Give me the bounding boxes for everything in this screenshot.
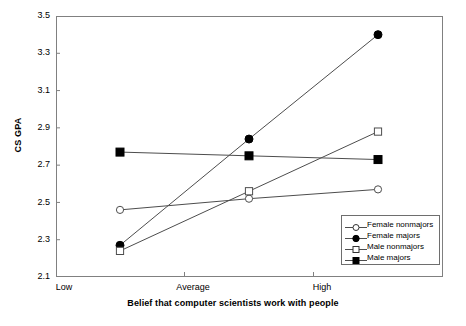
y-tick-label: 2.9 xyxy=(22,123,50,132)
y-tick-label: 3.5 xyxy=(22,11,50,20)
open-square-icon xyxy=(345,241,367,252)
data-point xyxy=(374,156,382,164)
data-point xyxy=(116,206,123,213)
data-point xyxy=(374,128,381,135)
data-point xyxy=(245,195,252,202)
legend-item: Male majors xyxy=(345,252,436,263)
data-point xyxy=(374,31,382,39)
x-tick-label-high: High xyxy=(287,282,357,292)
x-tick-label-low: Low xyxy=(29,282,99,292)
y-tick-label: 3.3 xyxy=(22,48,50,57)
legend-label: Male majors xyxy=(367,253,411,262)
y-tick-label: 3.1 xyxy=(22,86,50,95)
legend-label: Male nonmajors xyxy=(367,242,424,251)
y-axis-tick-labels: 2.1 2.3 2.5 2.7 2.9 3.1 3.3 3.5 xyxy=(22,0,50,326)
filled-circle-icon xyxy=(345,230,367,241)
data-point xyxy=(245,152,253,160)
data-point xyxy=(116,148,124,156)
data-point xyxy=(245,188,252,195)
filled-square-icon xyxy=(345,252,367,263)
legend-item: Male nonmajors xyxy=(345,241,436,252)
y-tick-label: 2.3 xyxy=(22,235,50,244)
x-axis-title: Belief that computer scientists work wit… xyxy=(0,298,466,308)
chart-figure: CS GPA 2.1 2.3 2.5 2.7 2.9 3.1 3.3 3.5 L… xyxy=(0,0,466,326)
legend-label: Female majors xyxy=(367,231,420,240)
legend-item: Female nonmajors xyxy=(345,219,436,230)
data-point xyxy=(245,135,253,143)
legend-label: Female nonmajors xyxy=(367,220,433,229)
data-point xyxy=(116,247,123,254)
open-circle-icon xyxy=(345,219,367,230)
y-tick-label: 2.5 xyxy=(22,198,50,207)
data-point xyxy=(374,186,381,193)
legend-item: Female majors xyxy=(345,230,436,241)
y-tick-label: 2.7 xyxy=(22,160,50,169)
legend: Female nonmajors Female majors Male nonm… xyxy=(341,215,440,265)
x-tick-label-average: Average xyxy=(158,282,228,292)
y-tick-label: 2.1 xyxy=(22,272,50,281)
